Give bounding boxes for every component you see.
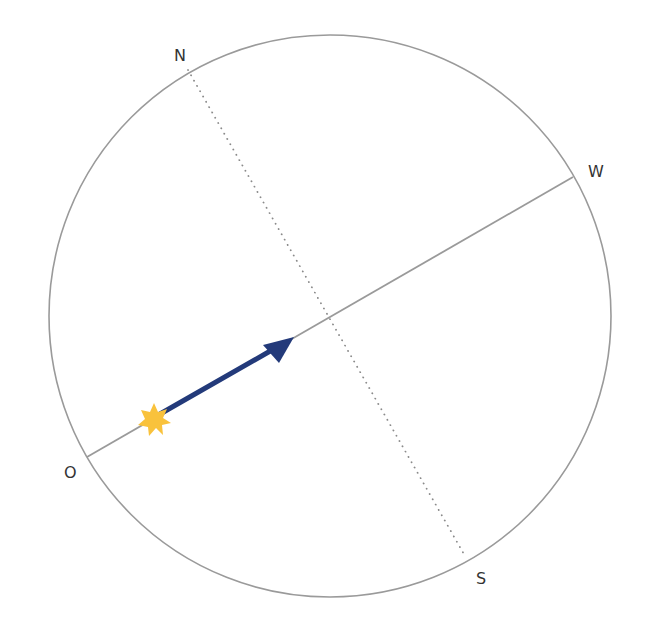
label-south: S	[476, 569, 486, 588]
arrow-shaft	[160, 350, 272, 414]
label-west: W	[588, 162, 604, 181]
north-south-dotted-line	[188, 70, 465, 556]
label-east: O	[64, 463, 77, 482]
sun-path-arrow	[160, 337, 294, 414]
label-north: N	[174, 46, 186, 65]
arrowhead-icon	[263, 337, 294, 363]
celestial-diagram: N W O S	[0, 0, 645, 635]
